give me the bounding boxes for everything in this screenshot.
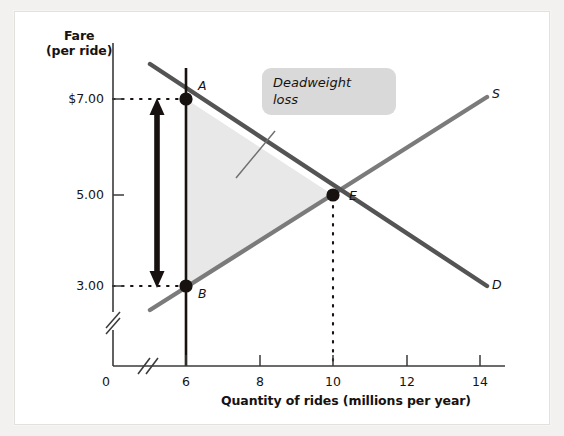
demand-curve-label: D xyxy=(492,277,502,292)
supply-curve-label: S xyxy=(492,86,500,101)
y-axis-title: Fare (per ride) xyxy=(46,28,112,58)
point-a xyxy=(179,92,192,105)
x-axis-title: Quantity of rides (millions per year) xyxy=(221,393,471,408)
x-tick-label-12: 12 xyxy=(392,374,422,389)
x-tick-label-0: 0 xyxy=(91,374,121,389)
point-label-a: A xyxy=(198,78,207,93)
y-axis-title-line2: (per ride) xyxy=(46,43,112,58)
x-tick-label-8: 8 xyxy=(245,374,275,389)
supply-demand-plot xyxy=(0,0,564,436)
point-b xyxy=(179,279,192,292)
deadweight-loss-region xyxy=(186,99,333,286)
deadweight-loss-callout: Deadweight loss xyxy=(262,68,396,115)
wedge-arrow xyxy=(150,98,165,288)
y-tick-label-5: 5.00 xyxy=(48,187,104,202)
x-tick-label-10: 10 xyxy=(318,374,348,389)
y-tick-label-7: $7.00 xyxy=(48,91,104,106)
x-tick-label-6: 6 xyxy=(171,374,201,389)
deadweight-loss-callout-line1: Deadweight xyxy=(273,74,387,91)
y-axis-title-line1: Fare xyxy=(46,28,112,43)
x-tick-label-14: 14 xyxy=(465,374,495,389)
point-e xyxy=(326,188,339,201)
deadweight-loss-callout-line2: loss xyxy=(273,91,387,108)
y-tick-label-3: 3.00 xyxy=(48,278,104,293)
point-label-e: E xyxy=(349,188,357,203)
figure-root: Fare (per ride) Quantity of rides (milli… xyxy=(0,0,564,436)
point-label-b: B xyxy=(198,286,207,301)
